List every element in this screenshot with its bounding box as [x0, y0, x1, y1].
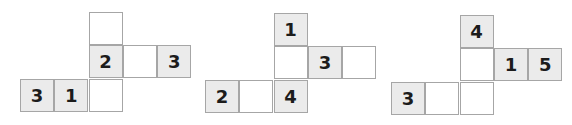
numbered-face: 3	[157, 45, 191, 78]
blank-face	[274, 46, 308, 79]
blank-face	[460, 48, 494, 81]
numbered-face: 3	[20, 79, 54, 112]
numbered-face: 5	[528, 48, 562, 81]
numbered-face: 1	[54, 79, 88, 112]
numbered-face: 1	[494, 48, 528, 81]
blank-face	[342, 46, 376, 79]
numbered-face: 4	[460, 15, 494, 48]
numbered-face: 2	[205, 80, 239, 113]
blank-face	[123, 45, 157, 78]
blank-face	[89, 79, 123, 112]
numbered-face: 1	[274, 13, 308, 46]
blank-face	[425, 82, 459, 115]
blank-face	[89, 12, 123, 45]
numbered-face: 3	[391, 82, 425, 115]
numbered-face: 4	[274, 80, 308, 113]
numbered-face: 3	[308, 46, 342, 79]
blank-face	[239, 80, 273, 113]
blank-face	[460, 82, 494, 115]
numbered-face: 2	[89, 45, 123, 78]
